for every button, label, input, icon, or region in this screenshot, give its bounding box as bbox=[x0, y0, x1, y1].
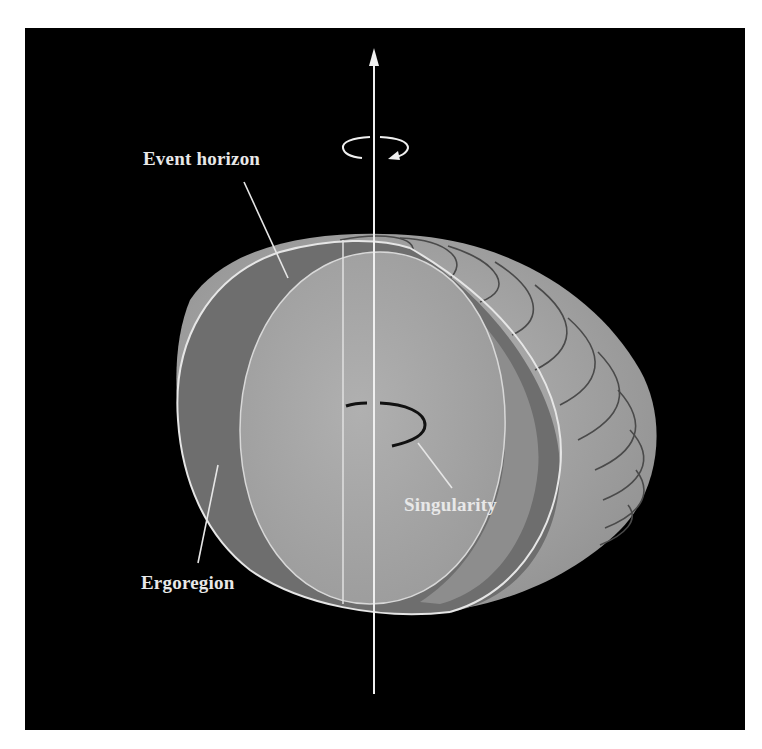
singularity-label: Singularity bbox=[404, 494, 497, 516]
ergoregion-label: Ergoregion bbox=[141, 572, 234, 594]
event-horizon-label: Event horizon bbox=[143, 148, 260, 170]
rotation-arrow-icon bbox=[343, 137, 408, 160]
event-horizon bbox=[240, 252, 505, 604]
kerr-black-hole-diagram bbox=[0, 0, 762, 749]
